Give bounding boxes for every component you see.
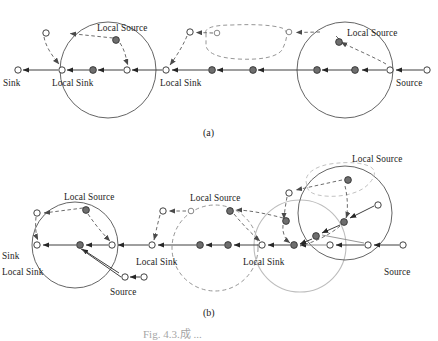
- label-local-sink-a1: Local Sink: [52, 79, 94, 88]
- label-local-sink-b3: Local Sink: [243, 258, 285, 267]
- node-filled: [77, 242, 84, 249]
- region-circle-dashed-b2: [172, 205, 258, 291]
- node-filled: [197, 242, 204, 249]
- node-open-source: [141, 274, 147, 280]
- node-filled: [341, 219, 348, 226]
- node-filled: [209, 67, 216, 74]
- node-filled: [250, 67, 257, 74]
- node-filled-local-source: [345, 177, 352, 184]
- node-open: [286, 190, 292, 196]
- node-open-sink: [34, 242, 40, 248]
- node-filled: [90, 67, 97, 74]
- node-open: [214, 30, 220, 36]
- node-open-local-sink: [163, 67, 169, 73]
- label-local-source-a2: Local Source: [347, 29, 398, 38]
- panel-label-b: (b): [203, 307, 215, 318]
- label-source-a: Source: [396, 79, 422, 88]
- node-open-local-sink: [59, 67, 65, 73]
- label-local-sink-b2: Local Sink: [136, 258, 178, 267]
- label-local-sink-a2: Local Sink: [160, 79, 202, 88]
- label-local-sink-b1: Local Sink: [2, 268, 44, 277]
- node-filled: [225, 242, 232, 249]
- label-source-b1: Source: [110, 288, 136, 297]
- node-open: [109, 242, 115, 248]
- node-open: [124, 67, 130, 73]
- region-blob-a: [206, 25, 287, 60]
- node-open: [43, 30, 49, 36]
- label-local-source-b1: Local Source: [64, 193, 115, 202]
- node-open: [34, 210, 40, 216]
- node-filled-local-source: [113, 37, 120, 44]
- node-open: [327, 242, 333, 248]
- node-filled-local-source: [336, 39, 343, 46]
- node-filled: [291, 242, 298, 249]
- node-open: [187, 29, 193, 35]
- node-open: [375, 202, 381, 208]
- node-open: [387, 67, 393, 73]
- node-filled: [352, 67, 359, 74]
- node-filled: [313, 233, 320, 240]
- node-open-local-sink: [259, 242, 265, 248]
- region-blob-b: [306, 163, 374, 197]
- label-local-source-b2: Local Source: [190, 194, 241, 203]
- node-open-source: [400, 242, 406, 248]
- figure-caption-partial: Fig. 4.3.成 ...: [143, 325, 202, 341]
- label-local-source-a1: Local Source: [97, 24, 148, 33]
- node-open: [188, 208, 194, 214]
- node-open-source: [122, 274, 128, 280]
- node-open: [365, 242, 371, 248]
- node-open-source: [424, 67, 430, 73]
- panel-label-a: (a): [203, 127, 214, 138]
- node-filled-local-source: [83, 207, 90, 214]
- node-filled-local-source: [227, 208, 234, 215]
- node-open-sink: [15, 67, 21, 73]
- label-local-source-b3: Local Source: [352, 155, 403, 164]
- label-sink-a: Sink: [3, 79, 20, 88]
- node-open: [160, 208, 166, 214]
- node-filled: [314, 67, 321, 74]
- label-sink-b: Sink: [2, 252, 19, 261]
- label-source-b2: Source: [384, 268, 410, 277]
- node-open-local-sink: [149, 242, 155, 248]
- node-open: [286, 29, 292, 35]
- node-filled: [283, 218, 290, 225]
